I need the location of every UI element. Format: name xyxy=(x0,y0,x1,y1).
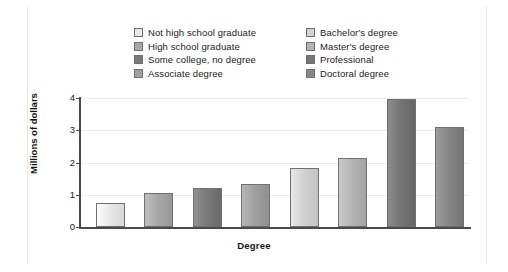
y-tick-mark xyxy=(76,195,80,196)
bar xyxy=(387,99,416,227)
bar xyxy=(144,193,173,227)
y-tick-mark xyxy=(76,98,80,99)
bar xyxy=(241,184,270,227)
chart-figure: Not high school graduate High school gra… xyxy=(0,0,508,272)
y-tick-label: 2 xyxy=(61,157,75,168)
bar xyxy=(338,158,367,227)
y-tick-mark xyxy=(76,130,80,131)
x-axis-line xyxy=(79,227,471,229)
plot-area: 43210 Millions of dollars Degree xyxy=(0,0,508,272)
bar xyxy=(290,168,319,227)
y-tick-label: 4 xyxy=(61,92,75,103)
bar xyxy=(193,188,222,227)
y-tick-label: 3 xyxy=(61,124,75,135)
bar xyxy=(435,127,464,227)
x-axis-title: Degree xyxy=(0,240,508,251)
y-tick-mark xyxy=(76,227,80,228)
y-tick-label: 0 xyxy=(61,221,75,232)
y-tick-label: 1 xyxy=(61,189,75,200)
y-tick-mark xyxy=(76,163,80,164)
bar xyxy=(96,203,125,227)
y-axis-title: Millions of dollars xyxy=(28,79,39,189)
